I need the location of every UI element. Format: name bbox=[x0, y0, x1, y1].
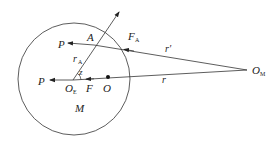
label-f: F bbox=[85, 82, 93, 94]
label-f-a: F bbox=[127, 30, 135, 42]
label-m: M bbox=[74, 102, 85, 114]
label-r: r bbox=[162, 74, 166, 85]
label-o-m-sub: M bbox=[260, 71, 266, 77]
label-o-e: O bbox=[65, 82, 73, 94]
line-r bbox=[73, 70, 247, 80]
label-p-top: P bbox=[57, 38, 65, 50]
center-point-o bbox=[106, 75, 110, 79]
label-z: z bbox=[78, 67, 83, 77]
label-f-a-sub: A bbox=[135, 37, 140, 43]
label-a: A bbox=[86, 31, 94, 43]
label-o-e-sub: E bbox=[73, 89, 77, 95]
label-o-m: O bbox=[252, 64, 260, 76]
label-o: O bbox=[103, 82, 111, 94]
label-r-a-sub: A bbox=[78, 59, 83, 65]
tidal-force-diagram: A F A P r A z P O E F O M r′ r O M bbox=[0, 0, 280, 146]
label-r-prime: r′ bbox=[165, 43, 172, 54]
label-p-left: P bbox=[37, 75, 45, 87]
label-r-a: r bbox=[73, 53, 77, 64]
force-p-top-arrow bbox=[68, 43, 94, 45]
